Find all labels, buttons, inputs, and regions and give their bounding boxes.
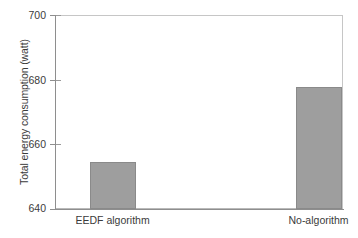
y-tick-label-660: 660 [6, 139, 46, 149]
bar-eedf-algorithm[interactable] [90, 162, 136, 209]
bar-no-algorithm[interactable] [296, 87, 342, 209]
y-tick-inner-680 [56, 80, 61, 81]
y-tick-label-700: 700 [6, 10, 46, 20]
y-tick-mark-680 [50, 80, 55, 81]
y-axis-spine [55, 15, 56, 210]
x-tick-label-no-algorithm: No-algorithm [259, 213, 358, 227]
y-tick-inner-700 [56, 15, 61, 16]
y-tick-mark-700 [50, 15, 55, 16]
bar-chart-figure: Total energy consumption (watt) 700 680 … [0, 0, 358, 238]
x-tick-label-eedf-algorithm: EEDF algorithm [53, 213, 173, 227]
y-tick-label-640: 640 [6, 203, 46, 213]
y-tick-mark-640 [50, 209, 55, 210]
y-tick-inner-660 [56, 144, 61, 145]
y-tick-mark-660 [50, 144, 55, 145]
x-axis-spine [55, 209, 344, 210]
y-tick-label-680: 680 [6, 75, 46, 85]
y-axis-title: Total energy consumption (watt) [16, 15, 32, 209]
